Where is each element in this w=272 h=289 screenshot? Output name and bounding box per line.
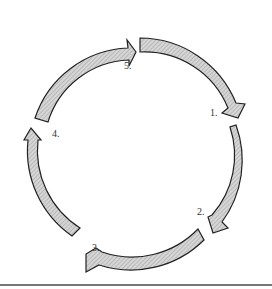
arrow-1 [140, 38, 245, 118]
label-4: 4. [52, 128, 60, 139]
arrow-2 [208, 125, 242, 233]
arrow-4 [24, 128, 80, 236]
label-2: 2. [197, 206, 205, 217]
label-3: 3. [92, 242, 100, 253]
bottom-rule [0, 284, 272, 286]
label-5: 5. [124, 60, 132, 71]
arrow-3 [86, 229, 204, 272]
arrow-5 [35, 40, 136, 122]
label-1: 1. [210, 107, 218, 118]
cycle-diagram: 1. 2. 3. 4. 5. [0, 0, 272, 289]
